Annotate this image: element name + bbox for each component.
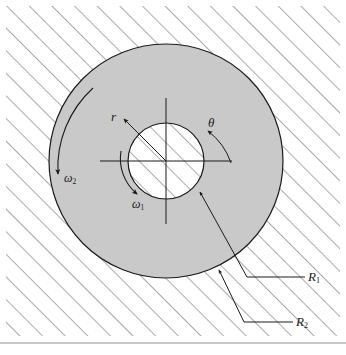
- r2-label: R2: [296, 315, 308, 330]
- r1-symbol: R: [308, 269, 316, 284]
- r2-subscript: 2: [304, 321, 308, 330]
- radial-coordinate-label: r: [111, 110, 116, 123]
- r1-label: R1: [308, 270, 320, 285]
- diagram-canvas: [0, 0, 346, 355]
- omega2-label: ω2: [64, 172, 76, 186]
- omega1-label: ω1: [132, 198, 144, 212]
- r2-symbol: R: [296, 314, 304, 329]
- r1-subscript: 1: [316, 276, 320, 285]
- angular-coordinate-label: θ: [208, 116, 214, 129]
- polar-annulus-diagram: r θ ω1 ω2 R1 R2: [0, 0, 346, 355]
- omega1-subscript: 1: [140, 203, 144, 212]
- omega2-subscript: 2: [72, 177, 76, 186]
